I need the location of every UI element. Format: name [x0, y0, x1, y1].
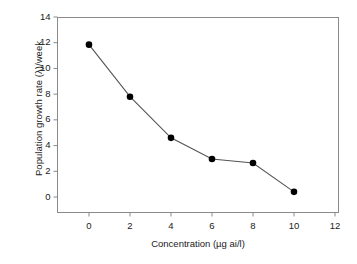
x-tick-label: 6: [200, 220, 224, 231]
x-tick-label: 2: [118, 220, 142, 231]
x-tick-label: 12: [323, 220, 347, 231]
y-axis-ticks: [54, 17, 58, 197]
y-axis-title: Population growth rate (λ)/week: [33, 14, 44, 204]
data-point-marker: [291, 189, 298, 196]
data-point-marker: [250, 160, 257, 167]
x-tick-label: 0: [77, 220, 101, 231]
chart-figure: 02468101214 024681012 Population growth …: [0, 0, 357, 264]
x-axis-title: Concentration (µg ai/l): [57, 238, 339, 249]
data-point-marker: [209, 156, 216, 163]
data-point-marker: [168, 135, 175, 142]
x-tick-label: 8: [241, 220, 265, 231]
plot-frame: [58, 18, 339, 213]
x-tick-label: 10: [282, 220, 306, 231]
data-point-marker: [127, 93, 134, 100]
x-axis-ticks: [89, 213, 335, 217]
data-point-marker: [86, 41, 93, 48]
x-tick-label: 4: [159, 220, 183, 231]
